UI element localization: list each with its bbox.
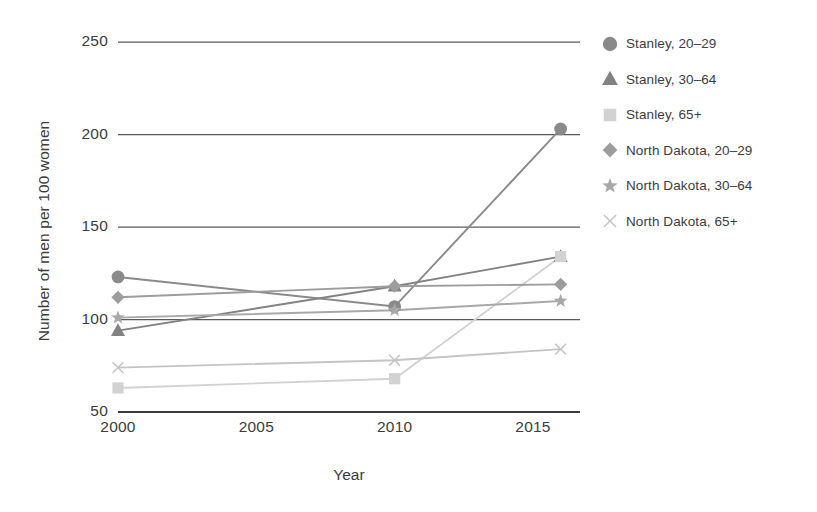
y-tick-label: 200 [62, 125, 108, 143]
marker-square [112, 382, 123, 393]
series-4 [118, 301, 561, 318]
y-axis-title: Number of men per 100 women [35, 81, 53, 381]
y-tick-label: 150 [62, 217, 108, 235]
x-axis-title: Year [118, 466, 580, 484]
legend-item: Stanley, 30–64 [600, 62, 810, 98]
x-tick-label: 2000 [100, 418, 135, 436]
series-0 [118, 129, 561, 307]
series-markers-5 [113, 344, 566, 373]
marker-circle [112, 271, 125, 284]
marker-circle [603, 37, 617, 51]
series-2 [118, 257, 561, 388]
x-tick-label: 2015 [515, 418, 550, 436]
legend-item: North Dakota, 20–29 [600, 133, 810, 169]
marker-diamond [111, 291, 124, 304]
series-markers-2 [112, 251, 566, 394]
marker-circle [554, 123, 567, 136]
legend-item: Stanley, 20–29 [600, 26, 810, 62]
y-tick-label: 250 [62, 32, 108, 50]
circle-icon [600, 34, 626, 54]
series-layer [111, 123, 568, 394]
legend-item: North Dakota, 30–64 [600, 168, 810, 204]
marker-square [555, 251, 566, 262]
x-tick-label: 2010 [377, 418, 412, 436]
legend-item: North Dakota, 65+ [600, 204, 810, 240]
x-tick-label: 2005 [239, 418, 274, 436]
marker-diamond [603, 143, 618, 158]
marker-square [604, 108, 617, 121]
star-icon [600, 176, 626, 196]
marker-star [111, 310, 125, 323]
square-icon [600, 105, 626, 125]
cross-icon [600, 211, 626, 231]
marker-star [554, 294, 568, 307]
legend-item: Stanley, 65+ [600, 97, 810, 133]
marker-square [389, 373, 400, 384]
marker-cross [604, 215, 616, 227]
legend-item-label: Stanley, 65+ [626, 107, 702, 122]
marker-star [602, 178, 617, 193]
legend-item-label: North Dakota, 20–29 [626, 143, 752, 158]
marker-triangle [602, 71, 618, 85]
triangle-icon [600, 69, 626, 89]
y-tick-label: 100 [62, 310, 108, 328]
diamond-icon [600, 140, 626, 160]
legend-item-label: Stanley, 20–29 [626, 36, 716, 51]
marker-diamond [554, 278, 567, 291]
legend-item-label: North Dakota, 30–64 [626, 178, 752, 193]
legend-item-label: North Dakota, 65+ [626, 214, 738, 229]
chart-legend: Stanley, 20–29Stanley, 30–64Stanley, 65+… [600, 26, 810, 239]
legend-item-label: Stanley, 30–64 [626, 72, 716, 87]
series-5 [118, 349, 561, 368]
line-chart: 50100150200250 2000200520102015 Number o… [0, 0, 817, 512]
series-markers-1 [111, 249, 568, 336]
